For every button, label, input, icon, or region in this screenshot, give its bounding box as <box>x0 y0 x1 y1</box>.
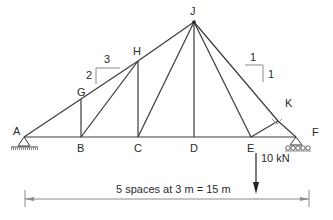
member-CJ <box>138 22 194 137</box>
slope-rise-left: 2 <box>86 69 92 81</box>
member-AG <box>24 99 81 137</box>
slope-run-left: 3 <box>104 53 110 65</box>
joint-label-D: D <box>190 142 198 154</box>
member-HJ <box>138 22 194 61</box>
member-KF <box>278 121 296 137</box>
member-EK <box>251 121 278 137</box>
roller-support-icon <box>285 137 311 151</box>
joint-label-A: A <box>13 125 21 137</box>
joint-label-C: C <box>134 142 142 154</box>
joint-label-B: B <box>77 142 84 154</box>
joint-label-F: F <box>312 126 319 138</box>
load-label: 10 kN <box>261 152 290 164</box>
dimension-label: 5 spaces at 3 m = 15 m <box>116 183 231 195</box>
joint-label-G: G <box>77 86 86 98</box>
joint-label-K: K <box>285 97 293 109</box>
joint-label-J: J <box>190 5 196 17</box>
joint-label-E: E <box>247 142 254 154</box>
slope-run-right: 1 <box>250 51 256 63</box>
load-arrow <box>253 153 259 194</box>
pin-support-icon <box>11 137 38 149</box>
slope-indicator-right <box>245 65 263 82</box>
truss-diagram: 3 2 1 1 A B C D E F G H J K 10 kN <box>0 0 333 220</box>
slope-rise-right: 1 <box>268 68 274 80</box>
joint-label-H: H <box>133 45 141 57</box>
joint-J-dot <box>192 20 196 24</box>
